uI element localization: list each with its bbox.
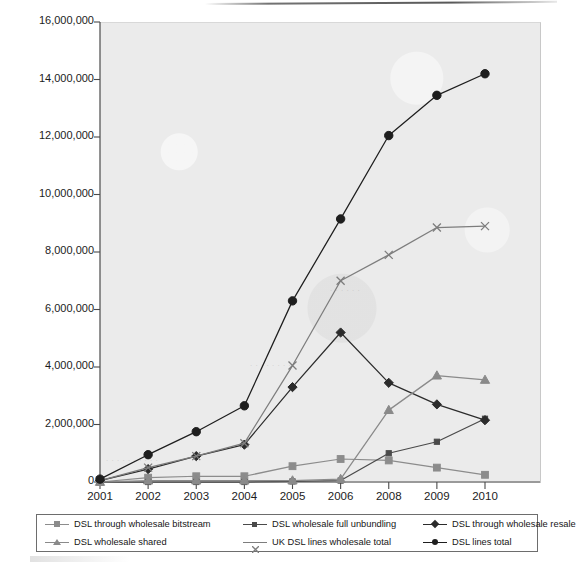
data-point xyxy=(385,131,393,139)
data-point xyxy=(432,400,441,409)
data-point xyxy=(385,457,392,464)
axes xyxy=(94,22,540,489)
data-point xyxy=(288,297,296,305)
legend-label: DSL through wholesale bitstream xyxy=(74,519,211,529)
data-point xyxy=(144,450,152,458)
legend-marker-circle-icon xyxy=(423,537,447,548)
data-point xyxy=(289,463,296,470)
legend-item: DSL through wholesale resale xyxy=(415,519,576,530)
legend-item: DSL wholesale full unbundling xyxy=(235,519,415,530)
legend-item: DSL through wholesale bitstream xyxy=(37,519,235,530)
data-point xyxy=(240,402,248,410)
data-point xyxy=(433,464,440,471)
legend-marker-triangle-icon xyxy=(45,537,69,548)
data-point xyxy=(384,405,393,413)
legend-marker-diamond-icon xyxy=(423,519,447,530)
legend-label: DSL through wholesale resale xyxy=(452,519,576,529)
legend-marker-cross-icon xyxy=(243,537,267,548)
x-tick-label: 2010 xyxy=(455,490,515,502)
series-uk-dsl-lines-wholesale-total xyxy=(96,222,489,484)
series-dsl-through-wholesale-resale xyxy=(95,328,489,485)
series-layer xyxy=(95,70,489,486)
legend-item: UK DSL lines wholesale total xyxy=(235,537,415,548)
data-point xyxy=(385,251,393,259)
legend-label: DSL wholesale full unbundling xyxy=(272,519,396,529)
data-point xyxy=(289,362,297,370)
legend-marker-square-icon xyxy=(45,519,69,530)
data-point xyxy=(433,91,441,99)
data-point xyxy=(337,456,344,463)
legend-item: DSL lines total xyxy=(415,537,576,548)
data-point xyxy=(481,70,489,78)
legend-item: DSL wholesale shared xyxy=(37,537,235,548)
data-point xyxy=(432,371,441,379)
data-point xyxy=(480,416,489,425)
data-point xyxy=(192,427,200,435)
y-axis-ticks xyxy=(94,22,100,482)
data-point xyxy=(336,215,344,223)
chart-legend: DSL through wholesale bitstreamDSL whole… xyxy=(36,514,538,552)
data-point xyxy=(434,439,439,444)
legend-label: DSL wholesale shared xyxy=(74,537,167,547)
series-dsl-lines-total xyxy=(96,70,489,484)
data-point xyxy=(482,471,489,478)
data-point xyxy=(386,451,391,456)
legend-label: DSL lines total xyxy=(452,537,512,547)
data-point xyxy=(96,475,104,483)
legend-label: UK DSL lines wholesale total xyxy=(272,537,391,547)
legend-marker-small-square-icon xyxy=(243,519,267,530)
data-point xyxy=(337,277,345,285)
